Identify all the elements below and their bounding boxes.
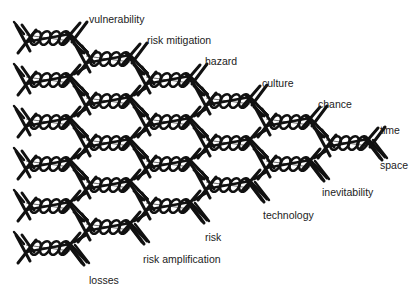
label-risk-mitigation: risk mitigation bbox=[147, 35, 211, 46]
label-chance: chance bbox=[318, 99, 352, 110]
label-hazard: hazard bbox=[205, 56, 237, 67]
label-culture: culture bbox=[262, 78, 294, 89]
label-risk-amplification: risk amplification bbox=[143, 254, 221, 265]
label-losses: losses bbox=[89, 275, 119, 286]
label-risk: risk bbox=[205, 232, 221, 243]
label-space: space bbox=[380, 160, 408, 171]
label-inevitability: inevitability bbox=[322, 187, 373, 198]
label-technology: technology bbox=[263, 210, 314, 221]
label-time: time bbox=[380, 125, 400, 136]
label-vulnerability: vulnerability bbox=[89, 14, 144, 25]
wire-lattice-diagram: vulnerability risk mitigation hazard cul… bbox=[0, 0, 419, 297]
